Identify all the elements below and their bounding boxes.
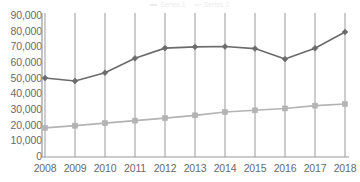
data-point-marker <box>223 110 228 115</box>
x-tick-label: 2013 <box>180 162 210 174</box>
x-tick-label: 2015 <box>240 162 270 174</box>
data-point-marker <box>252 46 258 52</box>
data-point-marker <box>313 103 318 108</box>
data-point-marker <box>43 125 48 130</box>
data-point-marker <box>312 45 318 51</box>
gridlines <box>45 13 345 157</box>
x-tick-label: 2010 <box>90 162 120 174</box>
x-tick-label: 2016 <box>270 162 300 174</box>
data-point-marker <box>343 102 348 107</box>
x-axis-tick-labels: 2008200920102011201220132014201520162017… <box>44 162 350 178</box>
data-point-marker <box>103 121 108 126</box>
data-point-marker <box>132 55 138 61</box>
x-tick-label: 2009 <box>60 162 90 174</box>
data-point-marker <box>253 108 258 113</box>
data-point-marker <box>342 29 348 35</box>
x-tick-label: 2018 <box>330 162 360 174</box>
data-point-marker <box>163 116 168 121</box>
data-point-marker <box>42 75 48 81</box>
data-point-marker <box>283 106 288 111</box>
x-tick-label: 2014 <box>210 162 240 174</box>
x-tick-label: 2012 <box>150 162 180 174</box>
x-tick-label: 2017 <box>300 162 330 174</box>
data-point-marker <box>192 44 198 50</box>
data-point-marker <box>193 113 198 118</box>
data-point-marker <box>72 78 78 84</box>
data-point-marker <box>282 56 288 62</box>
data-point-marker <box>102 70 108 76</box>
data-point-marker <box>222 44 228 50</box>
data-point-marker <box>133 118 138 123</box>
x-tick-label: 2011 <box>120 162 150 174</box>
data-point-marker <box>73 123 78 128</box>
x-tick-label: 2008 <box>30 162 60 174</box>
data-point-marker <box>162 45 168 51</box>
